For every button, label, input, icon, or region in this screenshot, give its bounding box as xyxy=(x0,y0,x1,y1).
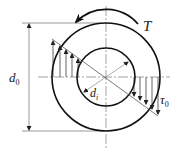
shear-distribution-line xyxy=(52,39,158,116)
max-shear-label: τ0 xyxy=(160,92,169,109)
torque-label: T xyxy=(143,18,153,34)
torque-arrow-icon xyxy=(76,9,138,24)
torsion-diagram: T d0 di τ0 xyxy=(0,0,184,154)
shear-arrows-left xyxy=(53,41,78,77)
outer-diameter-label: d0 xyxy=(9,70,20,87)
shear-arrows-right xyxy=(134,77,158,114)
inner-diameter-label: di xyxy=(90,86,98,102)
